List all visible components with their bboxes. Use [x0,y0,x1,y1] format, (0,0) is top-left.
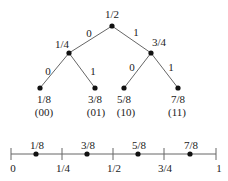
node-root [109,23,114,28]
edge-label-left-right: 1 [90,65,96,77]
point-1-8 [33,151,38,156]
node-right [148,50,153,55]
node-left [66,50,71,55]
binary-tree-diagram: 1/2 1/4 3/4 0 1 0 1 0 1 1/8 (00) 3/8 (01… [0,0,228,181]
point-label-3-8: 3/8 [81,139,96,151]
node-left-label: 1/4 [55,38,70,50]
point-label-1-8: 1/8 [30,139,45,151]
edge-root-right [112,26,151,53]
edge-label-right-right: 1 [168,61,174,73]
tick-label-0: 0 [10,162,16,174]
edge-right-left [124,53,151,88]
edge-label-root-right: 1 [133,26,139,38]
root-label: 1/2 [105,8,119,20]
leaf-01 [92,85,97,90]
point-3-8 [84,151,89,156]
leaf-00-code: (00) [35,106,54,119]
node-right-label: 3/4 [152,36,167,48]
point-label-5-8: 5/8 [132,139,147,151]
leaf-01-value: 3/8 [88,93,103,105]
point-label-7-8: 7/8 [184,139,199,151]
tick-label-1-2: 1/2 [107,162,121,174]
leaf-10-value: 5/8 [117,93,132,105]
tick-label-1-4: 1/4 [56,162,71,174]
leaf-11 [175,85,180,90]
edge-right-right [151,53,178,88]
tick-label-1: 1 [216,162,222,174]
leaf-11-code: (11) [168,106,186,119]
point-5-8 [135,151,140,156]
tree-nodes [37,23,180,90]
tick-label-3-4: 3/4 [158,162,173,174]
leaf-10 [121,85,126,90]
leaf-01-code: (01) [87,106,106,119]
point-7-8 [187,151,192,156]
leaf-00-value: 1/8 [37,93,52,105]
leaf-10-code: (10) [117,106,136,119]
edge-label-right-left: 0 [129,61,135,73]
edge-label-root-left: 0 [86,27,92,39]
leaf-11-value: 7/8 [171,93,186,105]
leaf-00 [37,85,42,90]
edge-label-left-left: 0 [45,65,51,77]
